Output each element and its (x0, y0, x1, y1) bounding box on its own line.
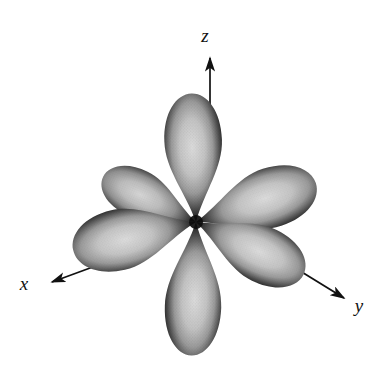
z-axis-label: z (200, 25, 209, 46)
orbital-figure: z x y (0, 0, 389, 390)
orbital-diagram-svg: z x y (0, 0, 389, 390)
x-axis-label: x (19, 273, 29, 294)
orbital-center-node (189, 215, 203, 229)
y-axis-label: y (353, 295, 364, 316)
